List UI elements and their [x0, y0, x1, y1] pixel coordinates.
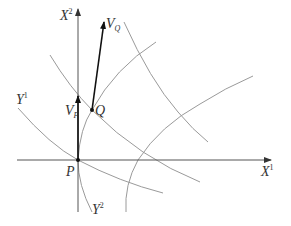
y2-curve-far — [126, 76, 253, 212]
y2-curve-through-p — [78, 42, 156, 212]
x2-axis-label: X2 — [59, 7, 73, 23]
x1-axis-label: X1 — [260, 163, 274, 179]
q-label: Q — [95, 103, 105, 118]
vp-label: VP — [65, 103, 79, 120]
p-label: P — [65, 164, 75, 179]
y2-curve-label: Y2 — [92, 201, 104, 217]
point-q — [90, 108, 94, 112]
point-p — [76, 158, 80, 162]
vector-vq — [92, 22, 104, 110]
y1-curve-far — [124, 22, 208, 142]
vq-label: VQ — [106, 16, 121, 33]
y1-curve-label: Y1 — [16, 91, 28, 107]
coordinate-diagram: X2 X1 VQ VP Q P Y1 Y2 — [0, 0, 291, 226]
